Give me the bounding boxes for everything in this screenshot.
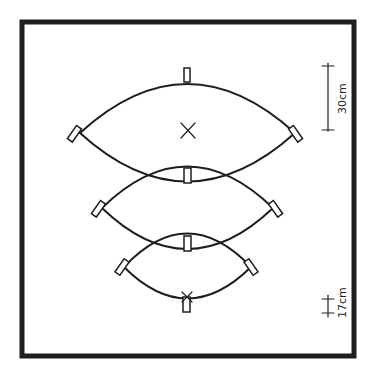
scale-bar-30cm: [322, 63, 334, 131]
top-lens: [67, 68, 302, 182]
scale-label-30cm: 30cm: [336, 83, 349, 114]
center-x-mark: [181, 123, 195, 138]
scale-bar-17cm: [322, 295, 334, 317]
bottom-lens: [115, 234, 258, 313]
right-tab: [289, 126, 303, 143]
diagram-canvas: 30cm 17cm: [0, 0, 375, 372]
top-tab: [184, 68, 190, 82]
middle-top-tab: [184, 168, 191, 183]
middle-right-tab: [269, 201, 283, 218]
bottom-left-tab: [115, 259, 129, 276]
bottom-top-tab: [184, 236, 191, 251]
left-tab: [67, 126, 81, 143]
scale-label-17cm: 17cm: [336, 287, 349, 318]
